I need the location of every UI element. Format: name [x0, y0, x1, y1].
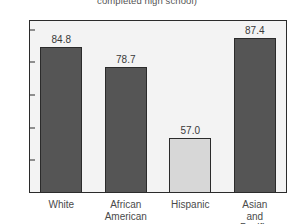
x-axis-category-label: Asian and Pacific Islander — [235, 199, 274, 224]
bar — [234, 38, 276, 193]
bar-value-label: 87.4 — [245, 25, 264, 36]
bar — [105, 67, 147, 193]
y-axis-tick-mark — [29, 62, 35, 63]
bar-value-label: 84.8 — [52, 34, 71, 45]
bar — [40, 47, 82, 193]
bar-value-label: 78.7 — [116, 54, 135, 65]
x-axis-category-label: Hispanic — [171, 199, 209, 211]
y-axis: 405060708090 — [0, 0, 29, 224]
y-axis-tick-mark — [29, 95, 35, 96]
bar — [169, 138, 211, 193]
bar-chart-figure: completed high school) 405060708090 84.8… — [0, 0, 294, 224]
x-axis-category-label: African American — [105, 199, 147, 222]
y-axis-tick-mark — [29, 127, 35, 128]
y-axis-tick-mark — [29, 160, 35, 161]
chart-title: completed high school) — [0, 0, 294, 6]
x-axis-category-label: White — [48, 199, 74, 211]
bar-value-label: 57.0 — [181, 125, 200, 136]
y-axis-tick-mark — [29, 29, 35, 30]
